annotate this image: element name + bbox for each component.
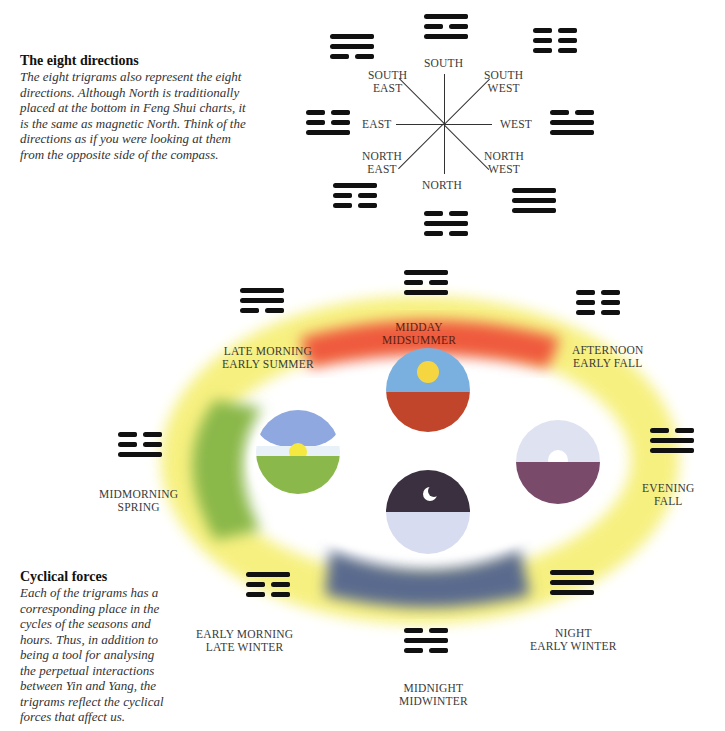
label-south-west: SOUTH WEST [484,69,523,95]
solid-line [240,288,284,293]
label-line: NORTH [484,150,524,163]
broken-line [118,442,162,447]
label-line: WEST [484,163,524,176]
broken-line [306,110,350,115]
broken-line [240,308,284,313]
trigram-south [424,14,468,44]
label-line: WEST [484,82,523,95]
compass-line-se-nw [443,124,489,170]
label-line: SOUTH [484,69,523,82]
text-line: hours. Thus, in addition to [20,632,190,648]
solid-line [330,44,374,49]
label-line: EARLY MORNING [196,628,293,641]
text-line: the perpetual interactions [20,663,190,679]
solid-line [424,34,468,39]
solid-line [404,270,448,275]
text-line: being a tool for analysing [20,647,190,663]
broken-line [118,432,162,437]
label-line: EARLY WINTER [530,640,617,653]
label-midday: MIDDAY MIDSUMMER [382,321,456,347]
trigram-early-morning [246,572,290,602]
label-line: MIDMORNING [99,488,178,501]
trigram-north-east [333,183,377,213]
label-line: SPRING [99,501,178,514]
label-night: NIGHT EARLY WINTER [530,627,617,653]
label-line: NORTH [362,150,402,163]
trigram-north-west [512,188,556,218]
label-line: EARLY SUMMER [222,358,314,371]
label-east: EAST [362,118,392,131]
label-line: NIGHT [530,627,617,640]
label-midnight: MIDNIGHT MIDWINTER [399,682,468,708]
trigram-midday [404,270,448,300]
label-line: EAST [368,82,407,95]
solid-line [550,570,594,575]
text-line: forces that affect us. [20,709,190,725]
text-line: corresponding place in the [20,601,190,617]
solid-line [650,438,694,443]
solid-line [650,448,694,453]
label-south: SOUTH [424,57,463,70]
solid-line [330,34,374,39]
trigram-afternoon [576,290,620,320]
broken-line [550,110,594,115]
trigram-evening [650,428,694,458]
broken-line [533,48,577,53]
broken-line [246,592,290,597]
label-line: LATE WINTER [196,641,293,654]
label-early-morning: EARLY MORNING LATE WINTER [196,628,293,654]
label-line: EAST [362,163,402,176]
trigram-south-east [330,34,374,64]
label-line: MIDNIGHT [399,682,468,695]
broken-line [306,120,350,125]
label-evening: EVENING FALL [642,482,695,508]
solid-line [240,298,284,303]
solid-line [512,208,556,213]
winter-band [325,550,530,608]
cyclical-forces-heading: Cyclical forces [20,569,107,585]
label-north: NORTH [422,179,462,192]
broken-line [533,38,577,43]
text-line: cycles of the seasons and [20,616,190,632]
trigram-night [550,570,594,600]
broken-line [650,428,694,433]
label-line: EARLY FALL [572,357,643,370]
text-line: Each of the trigrams has a [20,585,190,601]
label-late-morning: LATE MORNING EARLY SUMMER [222,345,314,371]
broken-line [333,193,377,198]
label-line: MIDWINTER [399,695,468,708]
broken-line [576,310,620,315]
broken-line [404,628,448,633]
label-line: SOUTH [368,69,407,82]
text-line: between Yin and Yang, the [20,678,190,694]
solid-line [424,14,468,19]
solid-line [404,290,448,295]
broken-line [404,648,448,653]
cyclical-forces-description: Each of the trigrams has a corresponding… [20,585,190,725]
broken-line [330,54,374,59]
text-line: trigrams reflect the cyclical [20,694,190,710]
solid-line [550,590,594,595]
broken-line [424,231,468,236]
broken-line [576,300,620,305]
solid-line [404,638,448,643]
trigram-east [306,110,350,140]
solid-line [550,130,594,135]
trigram-late-morning [240,288,284,318]
compass-line-sw-ne [398,123,444,169]
label-line: MIDDAY [382,321,456,334]
trigram-midnight [404,628,448,658]
label-north-east: NORTH EAST [362,150,402,176]
solid-line [333,183,377,188]
broken-line [333,203,377,208]
label-line: MIDSUMMER [382,334,456,347]
trigram-south-west [533,28,577,58]
solid-line [246,572,290,577]
solid-line [424,221,468,226]
compass-diagram: SOUTH SOUTH EAST SOUTH WEST EAST WEST NO… [0,0,725,250]
label-afternoon: AFTERNOON EARLY FALL [572,344,643,370]
trigram-west [550,110,594,140]
trigram-midmorning [118,432,162,462]
solid-line [512,188,556,193]
solid-line [550,120,594,125]
